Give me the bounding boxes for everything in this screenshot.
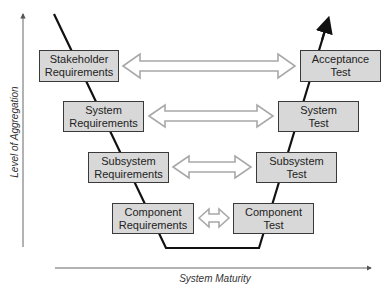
component-requirements-box: Component Requirements (112, 203, 194, 234)
box-label-line2: Test (330, 66, 350, 79)
y-axis-label: Level of Aggregation (9, 86, 20, 177)
double-arrow-stakeholder-acceptance (123, 54, 295, 78)
stakeholder-requirements-box: Stakeholder Requirements (39, 50, 119, 82)
double-arrow-system (149, 105, 273, 127)
box-label-line1: System (300, 104, 337, 117)
subsystem-requirements-box: Subsystem Requirements (88, 152, 169, 183)
v-arrow-head (322, 20, 328, 40)
double-arrow-subsystem (173, 156, 251, 178)
box-label-line1: Stakeholder (50, 53, 109, 66)
box-label-line2: Test (308, 117, 328, 130)
box-label-line1: Component (245, 206, 302, 219)
subsystem-test-box: Subsystem Test (256, 152, 337, 183)
system-test-box: System Test (278, 101, 359, 132)
box-label-line1: System (85, 104, 122, 117)
box-label-line2: Test (286, 168, 306, 181)
box-label-line1: Acceptance (312, 53, 369, 66)
x-axis-label: System Maturity (179, 273, 251, 284)
box-label-line1: Component (125, 206, 182, 219)
acceptance-test-box: Acceptance Test (300, 50, 381, 82)
box-label-line2: Test (263, 219, 283, 232)
v-model-diagram: Stakeholder Requirements System Requirem… (0, 0, 388, 293)
system-requirements-box: System Requirements (63, 101, 144, 132)
double-arrow-component (199, 209, 229, 227)
box-label-line2: Requirements (45, 66, 113, 79)
box-label-line1: Subsystem (101, 155, 155, 168)
box-label-line2: Requirements (69, 117, 137, 130)
box-label-line1: Subsystem (269, 155, 323, 168)
diagram-lines (0, 0, 388, 293)
component-test-box: Component Test (233, 203, 314, 234)
box-label-line2: Requirements (119, 219, 187, 232)
box-label-line2: Requirements (94, 168, 162, 181)
